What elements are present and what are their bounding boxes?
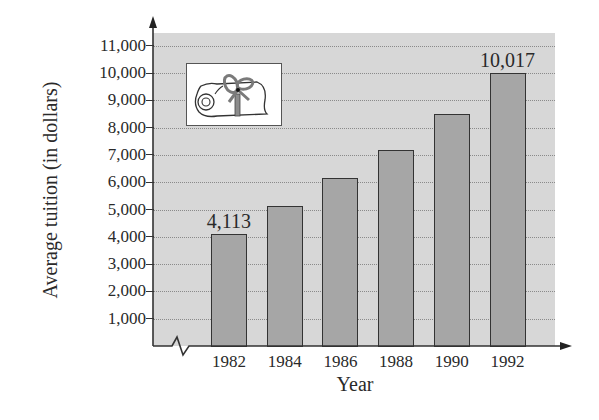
x-tick-label: 1988: [366, 353, 426, 370]
x-tick-label: 1986: [310, 353, 370, 370]
x-tick-label: 1984: [255, 353, 315, 370]
bar-chart: 1,0002,0003,0004,0005,0006,0007,0008,000…: [0, 0, 599, 420]
data-label: 4,113: [189, 211, 269, 231]
y-axis-title: Average tuition (in dollars): [39, 82, 62, 299]
x-tick-label: 1990: [422, 353, 482, 370]
data-label: 10,017: [468, 50, 548, 70]
x-tick-label: 1992: [478, 353, 538, 370]
x-axis-title: Year: [330, 373, 380, 396]
x-tick-label: 1982: [199, 353, 259, 370]
